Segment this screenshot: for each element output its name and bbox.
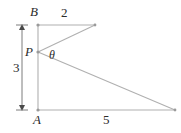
- vertex-P: [36, 50, 39, 53]
- vertex-C: [94, 24, 97, 27]
- vertex-label-A: A: [33, 113, 41, 126]
- vertex-label-P: P: [25, 45, 33, 58]
- vertex-D: [174, 109, 177, 112]
- segment-PD: [38, 52, 175, 110]
- geometry-figure: B P A θ 2 5 3: [0, 0, 181, 133]
- segment-length-label-bottom: 5: [103, 113, 110, 126]
- vertex-label-B: B: [30, 5, 38, 18]
- vertex-B: [36, 23, 39, 26]
- figure-canvas: [0, 0, 181, 133]
- angle-label-theta: θ: [49, 49, 55, 61]
- segment-length-label-top: 2: [61, 6, 68, 19]
- dimension-length-label-left: 3: [13, 61, 20, 74]
- segment-PC: [38, 25, 95, 52]
